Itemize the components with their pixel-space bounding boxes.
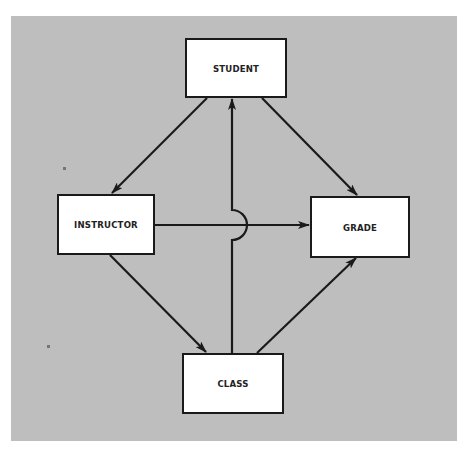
node-instructor: INSTRUCTOR bbox=[57, 194, 155, 255]
node-class-label: CLASS bbox=[217, 378, 248, 389]
node-student: STUDENT bbox=[185, 38, 287, 98]
scan-artifact bbox=[63, 167, 66, 170]
node-grade: GRADE bbox=[310, 196, 410, 258]
edge-instructor-class bbox=[110, 255, 206, 352]
node-class: CLASS bbox=[182, 353, 284, 414]
edge-class-grade bbox=[257, 258, 356, 353]
node-grade-label: GRADE bbox=[343, 222, 377, 233]
scan-artifact bbox=[47, 345, 50, 348]
edge-student-grade bbox=[262, 98, 357, 195]
node-student-label: STUDENT bbox=[213, 63, 259, 74]
edge-student-instructor bbox=[112, 98, 207, 193]
node-instructor-label: INSTRUCTOR bbox=[74, 219, 138, 230]
